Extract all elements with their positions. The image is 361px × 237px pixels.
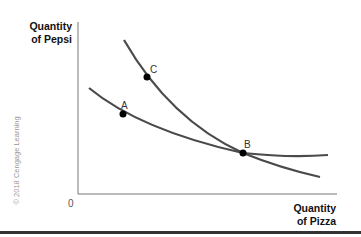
y-axis-label-line1: Quantity — [20, 20, 72, 33]
point-a-marker — [120, 111, 127, 118]
origin-label: 0 — [68, 198, 74, 209]
point-a-label: A — [121, 100, 128, 111]
y-axis-label-line2: of Pepsi — [20, 33, 72, 46]
x-axis-label: Quantity of Pizza — [280, 202, 336, 228]
y-axis-label: Quantity of Pepsi — [20, 20, 72, 46]
point-c-label: C — [150, 64, 157, 75]
copyright-text: © 2018 Cengage Learning — [12, 105, 21, 205]
point-b-label: B — [244, 139, 251, 150]
x-axis-label-line1: Quantity — [280, 202, 336, 215]
indifference-curve-flat — [89, 88, 328, 156]
x-axis-label-line2: of Pizza — [280, 215, 336, 228]
bottom-border — [0, 231, 361, 234]
point-b-marker — [240, 150, 247, 157]
